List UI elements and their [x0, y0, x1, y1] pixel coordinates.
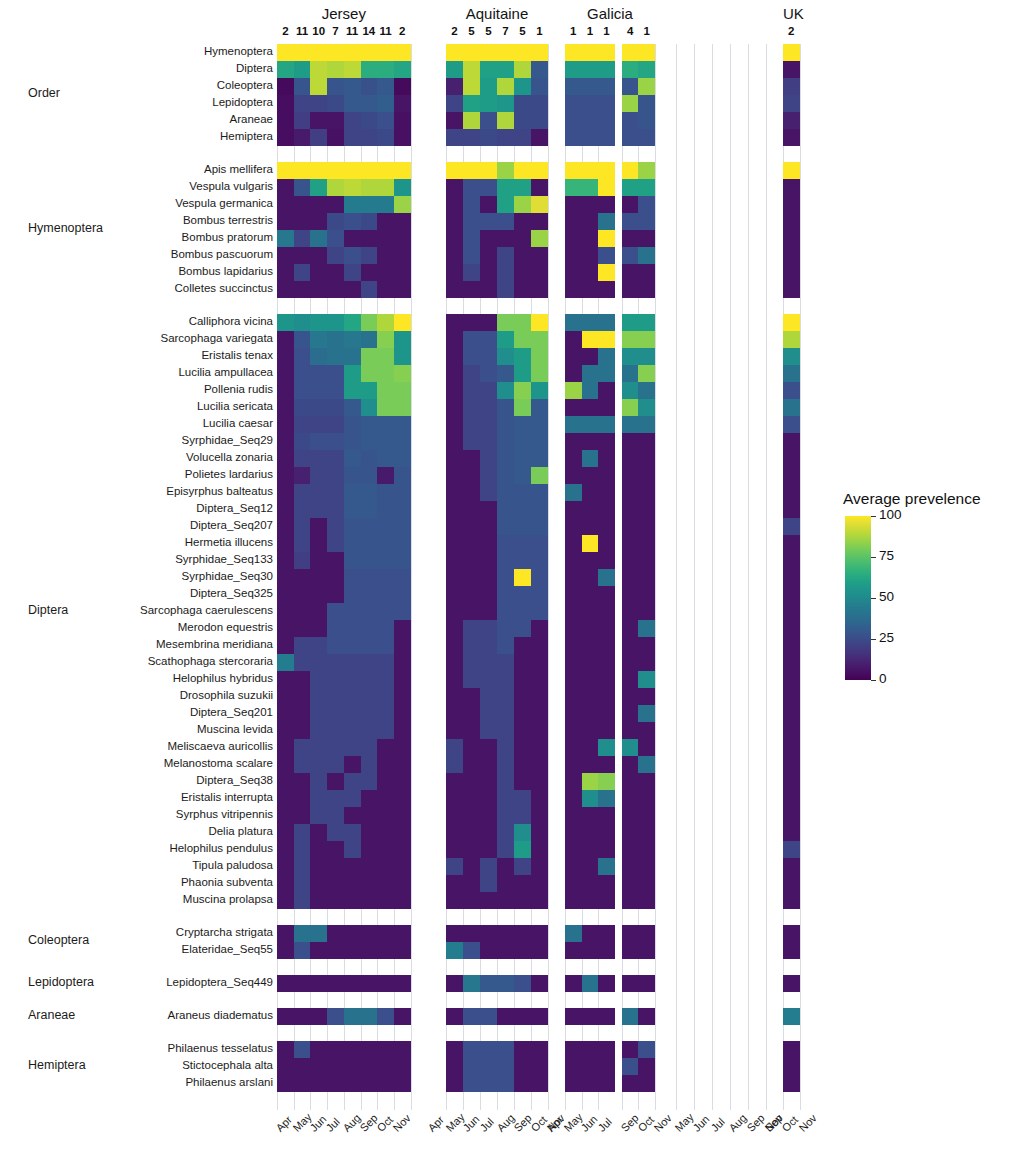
grid-line-vertical	[712, 44, 713, 1110]
heatmap-cell	[446, 348, 463, 365]
heatmap-cell	[497, 129, 514, 146]
heatmap-cell	[638, 501, 655, 518]
heatmap-cell	[638, 399, 655, 416]
heatmap-cell	[394, 247, 411, 264]
heatmap-cell	[565, 705, 582, 722]
heatmap-cell	[277, 467, 294, 484]
sample-count-label: 1	[637, 25, 657, 37]
heatmap-cell	[582, 264, 599, 281]
heatmap-cell	[622, 756, 639, 773]
heatmap-cell	[361, 518, 378, 535]
heatmap-cell	[463, 314, 480, 331]
heatmap-cell	[480, 518, 497, 535]
heatmap-cell	[394, 331, 411, 348]
heatmap-cell	[394, 671, 411, 688]
row-label: Apis mellifera	[204, 163, 273, 175]
heatmap-cell	[463, 95, 480, 112]
heatmap-cell	[565, 739, 582, 756]
heatmap-cell	[514, 671, 531, 688]
heatmap-cell	[294, 44, 311, 61]
heatmap-cell	[783, 365, 800, 382]
heatmap-cell	[277, 213, 294, 230]
heatmap-cell	[294, 722, 311, 739]
heatmap-cell	[783, 247, 800, 264]
heatmap-cell	[294, 892, 311, 909]
heatmap-cell	[377, 858, 394, 875]
heatmap-cell	[565, 450, 582, 467]
heatmap-cell	[344, 942, 361, 959]
heatmap-cell	[514, 569, 531, 586]
heatmap-cell	[638, 450, 655, 467]
heatmap-cell	[361, 95, 378, 112]
heatmap-cell	[531, 501, 548, 518]
heatmap-cell	[531, 44, 548, 61]
heatmap-cell	[344, 1041, 361, 1058]
heatmap-cell	[638, 230, 655, 247]
row-label: Elateridae_Seq55	[182, 943, 273, 955]
heatmap-cell	[497, 433, 514, 450]
heatmap-cell	[361, 78, 378, 95]
heatmap-cell	[598, 179, 615, 196]
heatmap-cell	[361, 484, 378, 501]
heatmap-cell	[446, 1008, 463, 1025]
heatmap-cell	[622, 569, 639, 586]
heatmap-cell	[344, 586, 361, 603]
legend-colorbar	[845, 516, 871, 680]
heatmap-cell	[294, 569, 311, 586]
heatmap-cell	[277, 196, 294, 213]
heatmap-cell	[394, 382, 411, 399]
heatmap-cell	[377, 552, 394, 569]
heatmap-cell	[310, 501, 327, 518]
heatmap-cell	[565, 892, 582, 909]
heatmap-cell	[622, 501, 639, 518]
heatmap-cell	[446, 603, 463, 620]
heatmap-cell	[344, 975, 361, 992]
heatmap-cell	[622, 975, 639, 992]
heatmap-cell	[531, 264, 548, 281]
heatmap-cell	[310, 365, 327, 382]
heatmap-cell	[622, 314, 639, 331]
heatmap-cell	[497, 44, 514, 61]
heatmap-cell	[565, 824, 582, 841]
heatmap-cell	[463, 230, 480, 247]
month-tick-label: Nov	[796, 1112, 818, 1134]
heatmap-cell	[622, 637, 639, 654]
sample-count-label: 1	[597, 25, 617, 37]
heatmap-cell	[622, 348, 639, 365]
heatmap-cell	[582, 620, 599, 637]
heatmap-cell	[582, 858, 599, 875]
heatmap-cell	[622, 1075, 639, 1092]
heatmap-cell	[480, 433, 497, 450]
heatmap-cell	[582, 1041, 599, 1058]
heatmap-cell	[582, 331, 599, 348]
heatmap-cell	[377, 416, 394, 433]
heatmap-cell	[638, 1008, 655, 1025]
heatmap-cell	[446, 535, 463, 552]
panel-title-jersey: Jersey	[277, 5, 411, 22]
heatmap-cell	[497, 773, 514, 790]
heatmap-cell	[582, 247, 599, 264]
heatmap-cell	[565, 416, 582, 433]
heatmap-cell	[622, 722, 639, 739]
heatmap-cell	[294, 196, 311, 213]
heatmap-cell	[480, 484, 497, 501]
heatmap-cell	[446, 365, 463, 382]
heatmap-cell	[344, 61, 361, 78]
heatmap-cell	[565, 569, 582, 586]
heatmap-cell	[638, 586, 655, 603]
heatmap-cell	[446, 773, 463, 790]
heatmap-cell	[394, 925, 411, 942]
heatmap-cell	[638, 518, 655, 535]
heatmap-cell	[514, 535, 531, 552]
heatmap-cell	[480, 875, 497, 892]
heatmap-cell	[582, 112, 599, 129]
heatmap-cell	[394, 348, 411, 365]
heatmap-cell	[344, 112, 361, 129]
heatmap-cell	[783, 433, 800, 450]
heatmap-cell	[480, 705, 497, 722]
heatmap-cell	[361, 671, 378, 688]
heatmap-cell	[310, 162, 327, 179]
heatmap-cell	[277, 892, 294, 909]
heatmap-cell	[310, 875, 327, 892]
heatmap-cell	[446, 314, 463, 331]
